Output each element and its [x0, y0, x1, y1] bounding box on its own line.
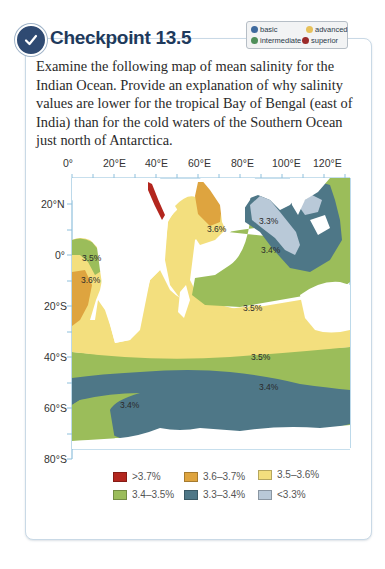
- legend-item: 3.6–3.7%: [184, 471, 245, 482]
- label-3.4-east: 3.4%: [261, 245, 281, 255]
- legend-swatch-icon: [258, 470, 272, 480]
- legend-swatch-icon: [184, 490, 198, 500]
- legend-item: 3.5–3.6%: [258, 469, 319, 480]
- label-3.6-swafrica: 3.6%: [81, 275, 101, 285]
- legend-swatch-icon: [184, 472, 198, 482]
- superior-dot-icon: [302, 37, 309, 44]
- legend-item: 3.3–3.4%: [184, 489, 245, 500]
- legend-swatch-icon: [113, 472, 127, 482]
- legend-item: >3.7%: [113, 471, 161, 482]
- label-3.6-arabian: 3.6%: [207, 224, 227, 234]
- label-3.4-southern-west: 3.4%: [120, 400, 140, 410]
- checkmark-circle-icon: [15, 24, 47, 56]
- salinity-map: 3.5% 3.6% 3.6% 3.3% 3.4% 3.5% 3.5% 3.4% …: [0, 0, 385, 569]
- label-3.5-40s: 3.5%: [251, 352, 271, 362]
- legend-swatch-icon: [113, 490, 127, 500]
- label-3.5-central: 3.5%: [243, 303, 263, 313]
- level-superior: superior: [302, 36, 338, 45]
- level-intermediate: intermediate: [251, 36, 301, 45]
- legend-item: <3.3%: [258, 489, 306, 500]
- level-advanced: advanced: [306, 25, 348, 34]
- label-3.4-southern-east: 3.4%: [259, 382, 279, 392]
- legend-swatch-icon: [258, 490, 272, 500]
- label-3.3-bengal: 3.3%: [259, 216, 279, 226]
- legend-item: 3.4–3.5%: [113, 489, 174, 500]
- checkpoint-title: Checkpoint 13.5: [50, 27, 191, 49]
- advanced-dot-icon: [306, 26, 313, 33]
- level-basic: basic: [251, 25, 278, 34]
- intermediate-dot-icon: [251, 37, 258, 44]
- label-3.5-westafrica: 3.5%: [82, 253, 102, 263]
- basic-dot-icon: [251, 26, 258, 33]
- difficulty-level-key: basic advanced intermediate superior: [246, 21, 348, 49]
